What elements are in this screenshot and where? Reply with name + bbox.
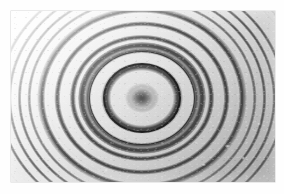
caption-area	[0, 183, 284, 194]
concentric-ring-system	[11, 11, 275, 182]
figure-root	[0, 0, 284, 194]
target-center-icon	[129, 87, 155, 109]
photographic-plate	[11, 11, 275, 182]
